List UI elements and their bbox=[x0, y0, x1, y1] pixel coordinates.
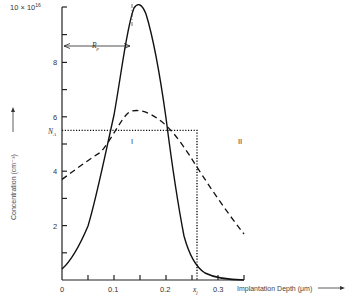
y-tick-6: 6 bbox=[53, 113, 57, 122]
y-axis-arrowhead-icon bbox=[11, 107, 15, 112]
x-axis-arrowhead-icon bbox=[340, 286, 345, 290]
y-axis bbox=[62, 7, 67, 280]
implant-profile-chart: 10 × 1016 8 6 4 2 0 0.1 0.2 0.3 xj Impla… bbox=[0, 0, 354, 295]
x-axis-title: Implantation Depth (μm) bbox=[237, 285, 312, 293]
x-tick-0.3: 0.3 bbox=[213, 285, 223, 294]
rp-label: Rp bbox=[91, 41, 100, 51]
y-unit-label: 10 × 1016 bbox=[10, 2, 41, 12]
broad-profile-dashed bbox=[62, 110, 244, 234]
y-tick-8: 8 bbox=[53, 58, 57, 67]
box-profile-dotted bbox=[62, 130, 197, 280]
y-tick-2: 2 bbox=[53, 222, 57, 231]
region-1-label: I bbox=[131, 137, 133, 146]
na-label: NA bbox=[47, 127, 57, 137]
x-tick-0.1: 0.1 bbox=[108, 285, 118, 294]
y-tick-4: 4 bbox=[53, 167, 57, 176]
xj-label: xj bbox=[192, 285, 198, 295]
region-2-label: II bbox=[238, 137, 242, 146]
y-axis-title: Concentration (cm⁻³) bbox=[10, 154, 18, 220]
x-tick-0.2: 0.2 bbox=[160, 285, 170, 294]
y-axis-title-group: Concentration (cm⁻³) bbox=[10, 107, 18, 220]
x-tick-0: 0 bbox=[60, 285, 64, 294]
